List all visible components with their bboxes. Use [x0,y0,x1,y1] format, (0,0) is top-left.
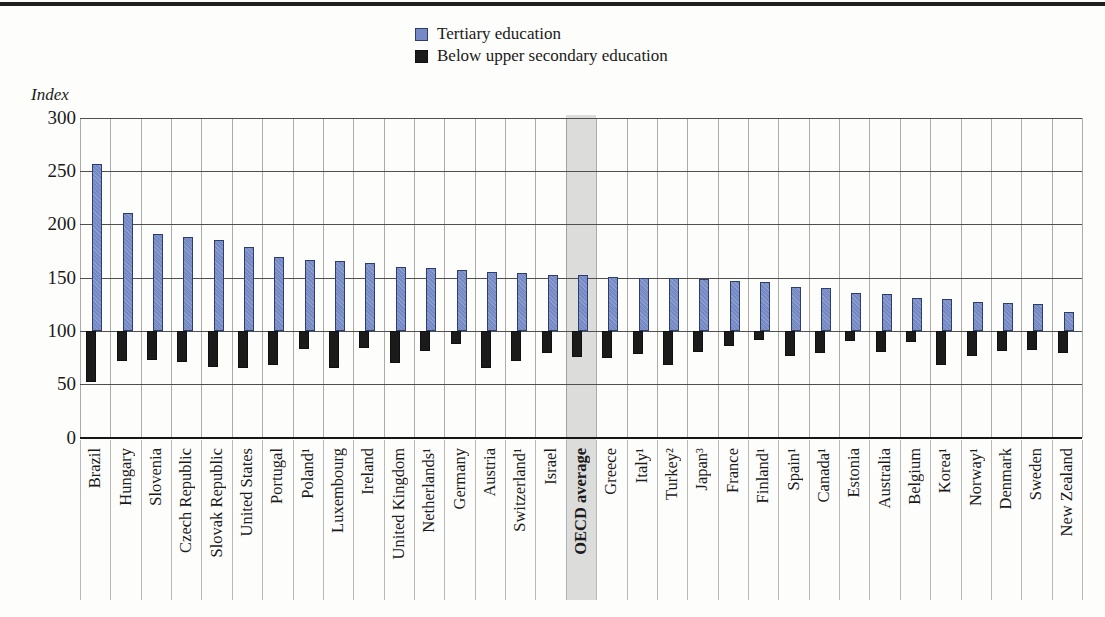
bar-below-upper-secondary-norway- [967,331,977,356]
bar-below-upper-secondary-portugal [268,331,278,365]
vertical-gridline-extension [900,440,901,600]
bar-below-upper-secondary-denmark [997,331,1007,351]
x-axis-label-slovenia: Slovenia [144,448,168,610]
bar-below-upper-secondary-czech-republic [177,331,187,362]
vertical-gridline-extension [232,440,233,600]
x-axis-label-text: Greece [600,448,622,495]
bar-tertiary-switzerland- [517,273,527,331]
bar-tertiary-germany [457,270,467,331]
x-axis-label-text: Turkey² [661,448,683,500]
x-axis-label-denmark: Denmark [994,448,1018,610]
below-upper-secondary-swatch-icon [415,50,428,63]
bar-tertiary-israel [548,275,558,332]
x-axis-label-oecd-average: OECD average [569,448,593,610]
horizontal-gridline [80,384,1082,385]
bar-tertiary-italy- [639,278,649,331]
x-axis-label-australia: Australia [873,448,897,610]
x-axis-label-ireland: Ireland [356,448,380,610]
x-axis-label-netherlands-: Netherlands¹ [417,448,441,610]
x-axis-label-brazil: Brazil [83,448,107,610]
bar-tertiary-austria [487,272,497,331]
y-axis-tick-label: 250 [18,160,76,182]
bar-tertiary-denmark [1003,303,1013,331]
y-axis-tick-label: 0 [18,427,76,449]
x-axis-label-hungary: Hungary [114,448,138,610]
x-axis-label-japan-: Japan³ [690,448,714,610]
vertical-gridline-extension [110,440,111,600]
x-axis-label-luxembourg: Luxembourg [326,448,350,610]
x-axis-label-text: Czech Republic [175,448,197,553]
bar-tertiary-slovak-republic [214,240,224,331]
bar-below-upper-secondary-turkey- [663,331,673,365]
vertical-gridline-extension [718,440,719,600]
bar-tertiary-netherlands- [426,268,436,331]
bar-below-upper-secondary-austria [481,331,491,368]
bar-below-upper-secondary-belgium [906,331,916,342]
bar-tertiary-japan- [699,279,709,331]
bar-tertiary-turkey- [669,278,679,331]
x-axis-label-text: Spain¹ [783,448,805,491]
x-axis-label-text: United Kingdom [388,448,410,559]
bar-below-upper-secondary-oecd-average [572,331,582,357]
legend-label-tertiary: Tertiary education [437,25,561,43]
x-axis-label-poland-: Poland¹ [296,448,320,610]
vertical-gridline [1082,118,1083,438]
vertical-gridline-extension [566,440,567,600]
bar-below-upper-secondary-sweden [1027,331,1037,350]
bar-tertiary-korea- [942,299,952,331]
x-axis-label-norway-: Norway¹ [964,448,988,610]
bar-tertiary-new-zealand [1064,312,1074,331]
x-axis-label-greece: Greece [599,448,623,610]
x-axis-label-new-zealand: New Zealand [1055,448,1079,610]
x-axis-label-france: France [721,448,745,610]
x-axis-label-text: OECD average [570,448,592,555]
bar-below-upper-secondary-slovenia [147,331,157,360]
vertical-gridline-extension [869,440,870,600]
vertical-gridline-extension [201,440,202,600]
y-axis-tick-label: 300 [18,107,76,129]
bar-below-upper-secondary-slovak-republic [208,331,218,367]
bar-tertiary-czech-republic [183,237,193,331]
x-axis-label-text: Australia [874,448,896,508]
bar-below-upper-secondary-new-zealand [1058,331,1068,353]
bar-tertiary-greece [608,277,618,331]
bar-tertiary-canada- [821,288,831,331]
x-axis-label-text: Italy¹ [631,448,653,483]
vertical-gridline-extension [1082,440,1083,600]
x-axis-label-slovak-republic: Slovak Republic [205,448,229,610]
x-axis-label-united-states: United States [235,448,259,610]
bar-below-upper-secondary-brazil [86,331,96,382]
y-axis-tick-label: 50 [18,373,76,395]
x-axis-label-korea-: Korea¹ [933,448,957,610]
vertical-gridline-extension [961,440,962,600]
vertical-gridline-extension [687,440,688,600]
x-axis-label-israel: Israel [539,448,563,610]
x-axis-label-text: Poland¹ [297,448,319,499]
x-axis-line [80,437,1082,439]
vertical-gridline-extension [1021,440,1022,600]
x-axis-label-austria: Austria [478,448,502,610]
x-axis-label-text: Ireland [357,448,379,495]
vertical-gridline-extension [839,440,840,600]
x-axis-label-portugal: Portugal [265,448,289,610]
vertical-gridline-extension [353,440,354,600]
bar-below-upper-secondary-ireland [359,331,369,348]
bar-tertiary-belgium [912,298,922,331]
vertical-gridline-extension [262,440,263,600]
bar-below-upper-secondary-poland- [299,331,309,349]
vertical-gridline-extension [505,440,506,600]
bar-below-upper-secondary-israel [542,331,552,353]
vertical-gridline-extension [293,440,294,600]
vertical-gridline-extension [141,440,142,600]
bar-below-upper-secondary-italy- [633,331,643,354]
bar-tertiary-finland- [760,282,770,331]
vertical-gridline-extension [535,440,536,600]
chart-canvas: Tertiary education Below upper secondary… [0,0,1105,617]
vertical-gridline-extension [809,440,810,600]
bar-below-upper-secondary-netherlands- [420,331,430,351]
x-axis-label-text: Portugal [266,448,288,504]
vertical-gridline-extension [171,440,172,600]
x-axis-label-text: Brazil [84,448,106,488]
y-axis-unit-label: Index [31,85,69,105]
horizontal-gridline [80,224,1082,225]
